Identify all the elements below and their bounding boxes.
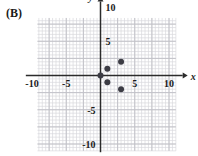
y-tick-label: 10: [106, 2, 116, 13]
data-point: [98, 73, 104, 79]
data-point: [118, 86, 124, 92]
x-tick-label: -5: [62, 78, 70, 89]
y-tick-label: 5: [106, 36, 111, 47]
y-axis-arrow: [98, 0, 104, 2]
y-axis-label: y: [88, 0, 94, 3]
x-axis-label: x: [190, 71, 196, 82]
x-tick-label: -10: [25, 78, 38, 89]
x-axis-arrow: [183, 73, 188, 79]
data-point: [104, 79, 110, 85]
y-tick-label: -5: [87, 105, 95, 116]
y-tick-label: -10: [82, 139, 95, 150]
x-tick-label: 5: [132, 78, 137, 89]
graph-figure: (B) -10-5510 105-5-10 x y: [0, 0, 198, 156]
coordinate-plane: -10-5510 105-5-10 x y: [0, 0, 198, 156]
data-point: [118, 59, 124, 65]
x-tick-label: 10: [164, 78, 174, 89]
axis-lines: [26, 0, 188, 152]
data-point: [104, 66, 110, 72]
